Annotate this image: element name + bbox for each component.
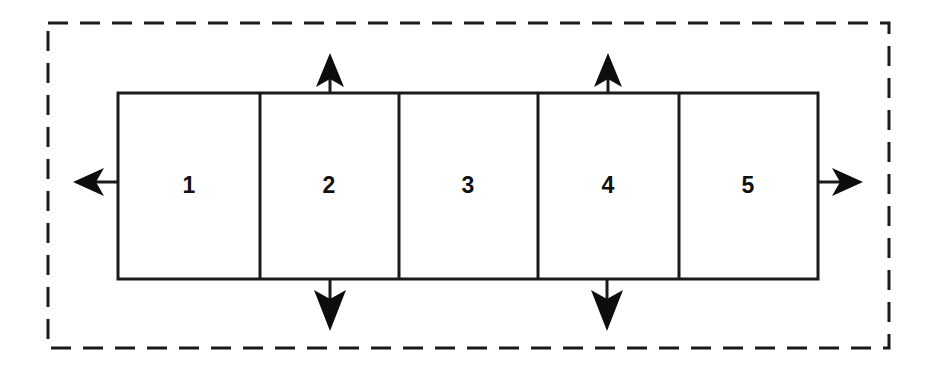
arrow-up-cell2 (316, 53, 344, 93)
cell-label-2: 2 (323, 172, 336, 198)
cell-label-1: 1 (183, 172, 196, 198)
cell-label-4: 4 (602, 172, 615, 198)
arrow-up-cell4 (594, 53, 622, 93)
arrow-left-out (73, 168, 118, 196)
arrow-down-cell4 (591, 279, 623, 331)
arrow-down-cell2 (314, 279, 346, 331)
diagram-canvas: 1 2 3 4 5 (0, 0, 933, 369)
arrow-right-out (818, 168, 863, 196)
diagram-root: 1 2 3 4 5 (0, 0, 933, 369)
cell-label-3: 3 (462, 172, 475, 198)
cell-label-5: 5 (742, 172, 755, 198)
